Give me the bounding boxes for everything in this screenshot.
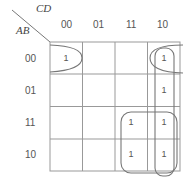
col-var-label: CD (36, 2, 51, 14)
cell-3-3: 1 (148, 149, 180, 159)
cell-3-2: 1 (115, 149, 147, 159)
row-label-2: 11 (25, 117, 35, 128)
cell-0-0: 1 (50, 53, 82, 63)
cell-0-3: 1 (148, 53, 180, 63)
col-label-2: 11 (126, 19, 136, 30)
row-var-label: AB (16, 24, 29, 36)
col-label-3: 10 (157, 19, 168, 30)
cell-2-2: 1 (115, 117, 147, 127)
row-label-3: 10 (25, 149, 36, 160)
row-label-1: 01 (25, 85, 36, 96)
cell-1-3: 1 (148, 85, 180, 95)
col-label-0: 00 (61, 19, 72, 30)
cell-2-3: 1 (148, 117, 180, 127)
row-label-0: 00 (25, 53, 36, 64)
col-label-1: 01 (93, 19, 104, 30)
